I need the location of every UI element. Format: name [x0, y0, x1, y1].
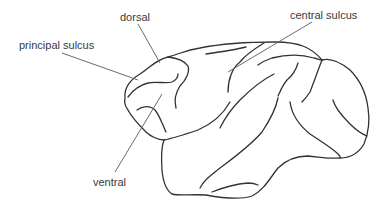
central-sulcus-leader-line [228, 22, 312, 72]
central-sulcus-line [228, 43, 264, 92]
sylvian-fissure-line [220, 74, 274, 128]
dorsal-leader-line [138, 24, 160, 63]
lunate-sulcus-line [302, 60, 322, 102]
parietal-occipital-contour [290, 102, 340, 158]
intraparietal-sulcus-line [258, 55, 322, 65]
ventral-leader-line [115, 94, 162, 172]
postcentral-sulcus-line [278, 63, 298, 96]
central-sulcus-label: central sulcus [290, 9, 357, 21]
occipital-sulcus-line [333, 100, 367, 136]
superior-frontal-sulcus [206, 47, 246, 54]
principal-sulcus-leader-line [62, 53, 138, 80]
dorsal-label: dorsal [120, 11, 150, 23]
ventral-label: ventral [93, 176, 126, 188]
brain-diagram: dorsal principal sulcus central sulcus v… [0, 0, 389, 209]
principal-sulcus-label: principal sulcus [19, 39, 94, 51]
inferior-temporal-sulcus [212, 183, 258, 192]
temporal-upper-contour [164, 102, 230, 140]
superior-temporal-sulcus [200, 98, 278, 188]
brain-outline-drawing [0, 0, 389, 209]
